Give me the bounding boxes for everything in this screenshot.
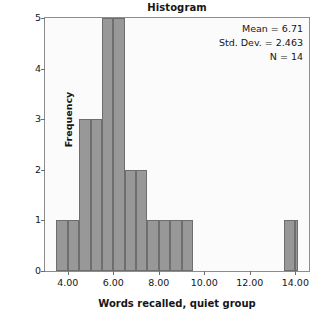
- x-axis-title: Words recalled, quiet group: [44, 297, 310, 310]
- x-tick-mark: [113, 271, 114, 275]
- y-tick-mark: [41, 69, 45, 70]
- y-axis-title: Frequency: [63, 65, 74, 175]
- y-tick-mark: [41, 220, 45, 221]
- y-tick-label: 4: [1, 63, 41, 75]
- x-tick-mark: [68, 271, 69, 275]
- y-tick-mark: [41, 271, 45, 272]
- x-tick-mark: [250, 271, 251, 275]
- histogram-bar: [113, 18, 124, 271]
- histogram-bar: [68, 220, 79, 271]
- y-tick-mark: [41, 119, 45, 120]
- histogram-bar: [159, 220, 170, 271]
- x-tick-label: 6.00: [91, 277, 135, 289]
- stat-mean: Mean = 6.71: [219, 22, 303, 36]
- y-tick-label: 0: [1, 265, 41, 277]
- x-tick-label: 4.00: [46, 277, 90, 289]
- histogram-chart: Histogram 012345 4.006.008.0010.0012.001…: [0, 0, 315, 321]
- y-tick-label: 5: [1, 12, 41, 24]
- statistics-annotation: Mean = 6.71 Std. Dev. = 2.463 N = 14: [219, 22, 303, 64]
- x-tick-label: 14.00: [273, 277, 315, 289]
- histogram-bar: [91, 119, 102, 271]
- stat-std-dev: Std. Dev. = 2.463: [219, 36, 303, 50]
- x-tick-label: 8.00: [137, 277, 181, 289]
- y-tick-label: 2: [1, 164, 41, 176]
- histogram-bar: [170, 220, 181, 271]
- y-tick-mark: [41, 18, 45, 19]
- x-tick-label: 10.00: [182, 277, 226, 289]
- x-tick-mark: [159, 271, 160, 275]
- histogram-bar: [182, 220, 193, 271]
- plot-area: 012345 4.006.008.0010.0012.0014.00 Frequ…: [45, 18, 309, 271]
- y-tick-label: 1: [1, 214, 41, 226]
- x-tick-mark: [204, 271, 205, 275]
- chart-title: Histogram: [44, 1, 310, 14]
- histogram-bar: [136, 170, 147, 271]
- stat-n: N = 14: [219, 50, 303, 64]
- histogram-bar: [284, 220, 295, 271]
- histogram-bar: [125, 170, 136, 271]
- x-tick-mark: [295, 271, 296, 275]
- histogram-bar: [102, 18, 113, 271]
- y-tick-mark: [41, 170, 45, 171]
- y-tick-label: 3: [1, 113, 41, 125]
- histogram-bar: [56, 220, 67, 271]
- histogram-bar: [79, 119, 90, 271]
- histogram-bar: [147, 220, 158, 271]
- histogram-bar: [295, 220, 297, 271]
- x-tick-label: 12.00: [228, 277, 272, 289]
